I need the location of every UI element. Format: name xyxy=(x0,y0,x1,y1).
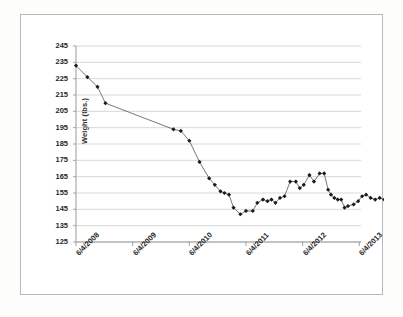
data-point-marker xyxy=(261,197,265,201)
y-axis-tick-label: 165 xyxy=(42,172,68,181)
data-point-marker xyxy=(382,197,384,201)
y-axis-tick-label: 125 xyxy=(42,237,68,246)
y-axis-tick-label: 155 xyxy=(42,188,68,197)
y-axis-tick-label: 145 xyxy=(42,204,68,213)
y-axis-tick-label: 235 xyxy=(42,57,68,66)
weight-series-markers xyxy=(74,64,384,217)
y-axis-tick-label: 135 xyxy=(42,221,68,230)
y-axis-tick-label: 195 xyxy=(42,123,68,132)
weight-series-line xyxy=(76,66,384,215)
data-point-marker xyxy=(265,199,269,203)
data-point-marker xyxy=(222,191,226,195)
data-point-marker xyxy=(103,101,107,105)
data-point-marker xyxy=(322,171,326,175)
y-axis-tick-label: 175 xyxy=(42,155,68,164)
data-point-marker xyxy=(339,197,343,201)
data-point-marker xyxy=(288,179,292,183)
data-point-marker xyxy=(294,179,298,183)
data-point-marker xyxy=(378,196,382,200)
y-axis-tick-label: 205 xyxy=(42,106,68,115)
data-point-marker xyxy=(282,194,286,198)
y-axis-tick-label: 245 xyxy=(42,41,68,50)
page-background: Weight (lbs.) 24523522521520519518517516… xyxy=(0,0,403,317)
chart-frame: Weight (lbs.) 24523522521520519518517516… xyxy=(20,14,383,295)
weight-line-chart xyxy=(21,15,384,296)
y-axis-tick-label: 215 xyxy=(42,90,68,99)
data-point-marker xyxy=(326,188,330,192)
y-axis-tick-label: 185 xyxy=(42,139,68,148)
data-point-marker xyxy=(255,201,259,205)
gridlines xyxy=(76,46,361,242)
y-axis-tick-label: 225 xyxy=(42,74,68,83)
data-point-marker xyxy=(373,197,377,201)
